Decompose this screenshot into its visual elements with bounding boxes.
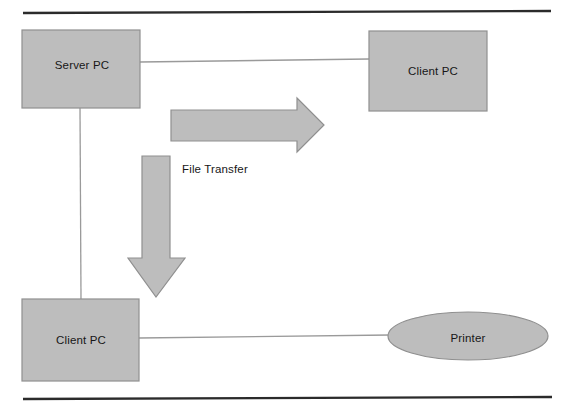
down-arrow-icon	[128, 156, 185, 297]
arrow-file-transfer-down	[128, 156, 185, 297]
connector-client-bottom-to-printer	[139, 335, 390, 338]
client-pc-bottom-label: Client PC	[56, 334, 106, 346]
file-transfer-label: File Transfer	[182, 163, 248, 175]
bottom-rule	[23, 397, 552, 399]
client-pc-top-label: Client PC	[408, 65, 458, 77]
top-rule	[23, 11, 551, 13]
node-client-pc-bottom[interactable]: Client PC	[22, 299, 139, 381]
node-printer[interactable]: Printer	[388, 312, 548, 360]
right-arrow-icon	[171, 98, 324, 152]
printer-label: Printer	[451, 332, 486, 344]
connector-server-to-client-top	[140, 59, 369, 62]
connector-server-to-client-bottom	[80, 108, 81, 299]
server-pc-label: Server PC	[55, 59, 109, 71]
arrow-file-transfer-right	[171, 98, 324, 152]
node-client-pc-top[interactable]: Client PC	[369, 31, 487, 111]
diagram-canvas: Server PC Client PC Client PC Printer Fi…	[0, 0, 567, 411]
node-server-pc[interactable]: Server PC	[22, 30, 140, 108]
network-diagram: Server PC Client PC Client PC Printer Fi…	[0, 0, 567, 411]
